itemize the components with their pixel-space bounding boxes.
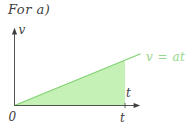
y-axis-arrowhead bbox=[12, 28, 17, 35]
origin-label: 0 bbox=[9, 110, 17, 124]
line-equation-label: v = at bbox=[146, 50, 185, 64]
velocity-time-graph: v t 0 t v = at bbox=[0, 0, 186, 133]
velocity-time-figure: For a) v t 0 t v = at bbox=[0, 0, 186, 133]
y-axis-label: v bbox=[19, 23, 26, 37]
x-axis-label: t bbox=[126, 86, 131, 100]
x-axis-arrowhead bbox=[134, 103, 141, 108]
t-tick-label: t bbox=[120, 111, 125, 125]
